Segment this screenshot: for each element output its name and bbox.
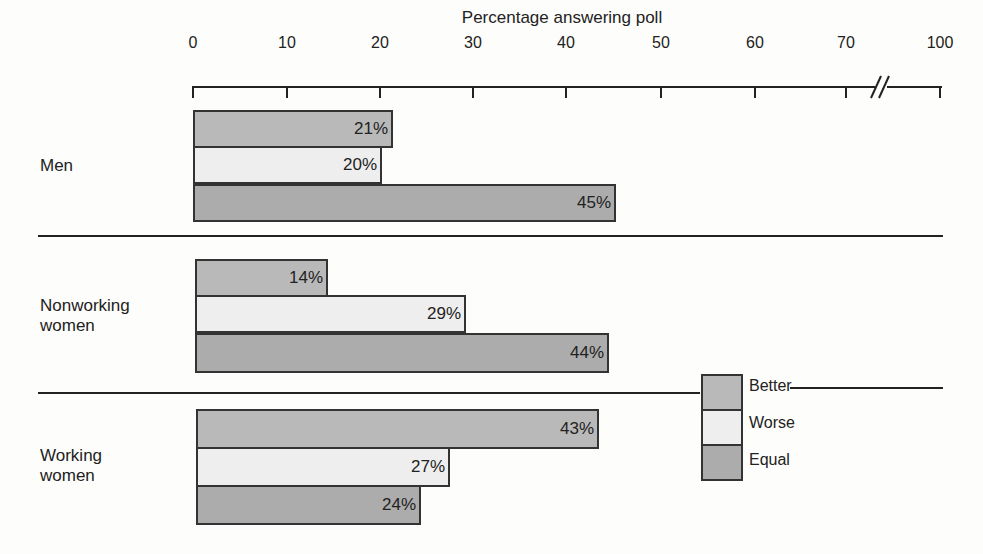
bar-men-better: 21% — [193, 110, 393, 148]
group-label-nonworking-women: Nonworking women — [40, 296, 130, 336]
bar-working-worse: 27% — [196, 447, 450, 487]
x-axis-line — [192, 86, 875, 88]
x-tick-label: 10 — [278, 34, 296, 52]
legend-label-better: Better — [749, 377, 792, 395]
bar-working-better: 43% — [196, 409, 599, 449]
group-label-line: Working — [40, 446, 102, 466]
legend-swatch-worse — [701, 409, 743, 446]
group-label-line: Men — [40, 156, 73, 176]
x-tick-label: 50 — [652, 34, 670, 52]
x-tick — [379, 86, 381, 98]
x-tick-label: 20 — [371, 34, 389, 52]
x-tick — [754, 86, 756, 98]
legend-swatch-better — [701, 374, 743, 411]
group-separator — [38, 235, 943, 237]
x-tick — [939, 86, 941, 98]
x-tick — [192, 86, 194, 98]
bar-men-worse: 20% — [193, 146, 382, 184]
x-tick-label: 0 — [189, 34, 198, 52]
x-axis-title: Percentage answering poll — [412, 8, 712, 28]
bar-nonworking-worse: 29% — [195, 295, 466, 333]
group-label-line: women — [40, 316, 130, 336]
x-tick-label: 40 — [557, 34, 575, 52]
x-tick — [472, 86, 474, 98]
group-separator-right — [790, 387, 943, 389]
x-tick-label: 30 — [464, 34, 482, 52]
axis-break-icon — [868, 74, 894, 100]
x-tick-label: 100 — [927, 34, 954, 52]
bar-men-equal: 45% — [193, 184, 616, 222]
x-tick — [286, 86, 288, 98]
x-tick-label: 60 — [746, 34, 764, 52]
x-tick — [660, 86, 662, 98]
legend-swatch-equal — [701, 444, 743, 481]
group-label-men: Men — [40, 156, 73, 176]
group-label-line: women — [40, 466, 102, 486]
group-label-line: Nonworking — [40, 296, 130, 316]
x-tick-label: 70 — [837, 34, 855, 52]
legend-label-worse: Worse — [749, 414, 795, 432]
x-axis-line-after-break — [887, 86, 942, 88]
group-separator — [38, 392, 700, 394]
x-tick — [845, 86, 847, 98]
x-tick — [565, 86, 567, 98]
legend-label-equal: Equal — [749, 451, 790, 469]
bar-nonworking-equal: 44% — [195, 333, 609, 373]
bar-working-equal: 24% — [196, 485, 421, 525]
legend — [701, 374, 743, 481]
bar-nonworking-better: 14% — [195, 259, 328, 297]
group-label-working-women: Working women — [40, 446, 102, 486]
